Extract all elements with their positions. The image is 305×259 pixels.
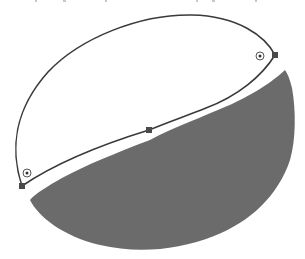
top-edge-remnants (35, 0, 257, 2)
drawing-canvas (0, 0, 305, 259)
middle-anchor-point[interactable] (146, 127, 152, 133)
left-target-marker-icon[interactable] (23, 169, 31, 177)
right-target-marker-icon[interactable] (256, 52, 264, 60)
right-anchor-point[interactable] (272, 52, 278, 58)
left-anchor-point[interactable] (19, 183, 25, 189)
